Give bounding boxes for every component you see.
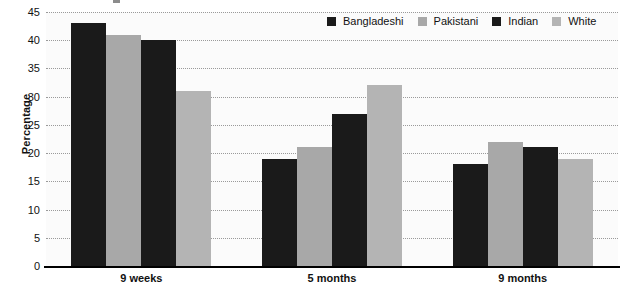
bar [488, 142, 523, 266]
bar [367, 85, 402, 266]
y-axis-tick-label: 0 [0, 260, 40, 272]
bar-chart: Percentage 051015202530354045 9 weeks5 m… [0, 0, 620, 292]
legend-label: White [568, 15, 596, 27]
legend-swatch-icon [327, 17, 336, 26]
bar [523, 147, 558, 266]
x-axis-category-label: 5 months [308, 272, 357, 284]
bar [106, 35, 141, 266]
y-axis-tick-label: 45 [0, 6, 40, 18]
legend-swatch-icon [552, 17, 561, 26]
x-axis-category-label: 9 months [498, 272, 547, 284]
legend-swatch-icon [418, 17, 427, 26]
bar [332, 114, 367, 266]
x-axis-line [44, 266, 620, 268]
y-axis-tick-label: 25 [0, 119, 40, 131]
bar [262, 159, 297, 266]
bar [558, 159, 593, 266]
y-axis-tick-label: 20 [0, 147, 40, 159]
y-axis-tick-label: 5 [0, 232, 40, 244]
legend-label: Indian [508, 15, 538, 27]
y-axis-tick-label: 35 [0, 62, 40, 74]
bar [297, 147, 332, 266]
bar [71, 23, 106, 266]
bar [141, 40, 176, 266]
x-axis-category-labels: 9 weeks5 months9 months [46, 272, 618, 290]
bar [453, 164, 488, 266]
legend-item: Indian [492, 15, 538, 27]
bar [176, 91, 211, 266]
cropped-title-artifact [113, 0, 120, 3]
y-axis-tick-label: 30 [0, 91, 40, 103]
y-axis-tick-label: 40 [0, 34, 40, 46]
bars-layer [46, 12, 618, 266]
y-axis-tick-label: 10 [0, 204, 40, 216]
y-axis-tick-label: 15 [0, 175, 40, 187]
chart-legend: BangladeshiPakistaniIndianWhite [327, 14, 596, 28]
legend-label: Pakistani [434, 15, 479, 27]
x-axis-category-label: 9 weeks [120, 272, 162, 284]
legend-item: White [552, 15, 596, 27]
legend-swatch-icon [492, 17, 501, 26]
legend-label: Bangladeshi [343, 15, 404, 27]
legend-item: Bangladeshi [327, 15, 404, 27]
legend-item: Pakistani [418, 15, 479, 27]
